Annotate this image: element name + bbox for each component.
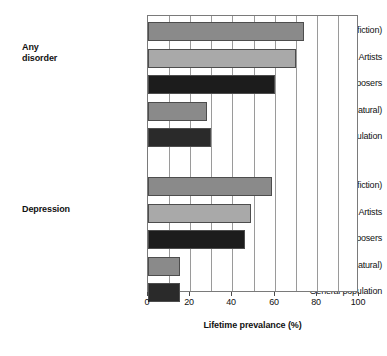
bar-fill (148, 128, 211, 147)
tick-mark (358, 292, 359, 296)
tick-mark (231, 292, 232, 296)
tick-label: 100 (343, 297, 373, 307)
bar (148, 230, 248, 252)
group-title-depression: Depression (22, 204, 70, 215)
chart-figure: Any disorder Depression Writers (fiction… (0, 0, 387, 356)
bar (148, 102, 210, 124)
bar-fill (148, 75, 275, 94)
bar-fill (148, 102, 207, 121)
bar-fill (148, 49, 296, 68)
group-title-line: Any (22, 42, 57, 53)
group-title-line: Depression (22, 204, 70, 215)
tick-label: 60 (259, 297, 289, 307)
bar-fill (148, 177, 272, 196)
tick-label: 80 (301, 297, 331, 307)
bar (148, 75, 278, 97)
bar-fill (148, 22, 304, 41)
tick-label: 40 (216, 297, 246, 307)
gridline (338, 16, 339, 291)
bar (148, 204, 254, 226)
tick-label: 0 (132, 297, 162, 307)
bar-fill (148, 230, 245, 249)
bar (148, 128, 214, 150)
bar-fill (148, 204, 251, 223)
group-title-any-disorder: Any disorder (22, 42, 57, 64)
tick-mark (316, 292, 317, 296)
bar (148, 177, 275, 199)
plot-area (147, 15, 358, 292)
group-title-line: disorder (22, 53, 57, 64)
tick-mark (274, 292, 275, 296)
gridline (317, 16, 318, 291)
bar (148, 49, 299, 71)
bar-fill (148, 257, 180, 276)
tick-label: 20 (174, 297, 204, 307)
tick-mark (147, 292, 148, 296)
x-axis-label: Lifetime prevalance (%) (147, 320, 358, 330)
bar (148, 257, 183, 279)
tick-mark (189, 292, 190, 296)
bar (148, 22, 307, 44)
